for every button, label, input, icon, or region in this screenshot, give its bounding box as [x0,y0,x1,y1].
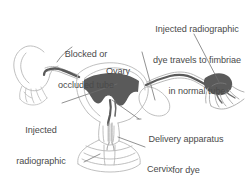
label-vaginal-canal: Vaginal canal [12,160,84,182]
label-ovary-line1: Ovary [106,66,148,76]
label-fimbriae-line1: Injected radiographic [144,24,250,34]
label-fimbriae-line2: dye travels to fimbriae [144,55,250,65]
label-vaginal-line1: Vaginal canal [12,181,84,182]
label-ovary: Ovary [106,45,148,97]
label-cervix: Cervix [147,143,191,182]
label-injected-dye-travels-to-fimbriae: Injected radiographic dye travels to fim… [144,3,250,117]
label-cervix-line1: Cervix [147,164,191,174]
label-injected-dye-line1: Injected [10,125,72,135]
label-fimbriae-line3: in normal tube [144,86,250,96]
hysterosalpingogram-figure: Blocked or occluded tube Injected radiog… [0,0,250,182]
